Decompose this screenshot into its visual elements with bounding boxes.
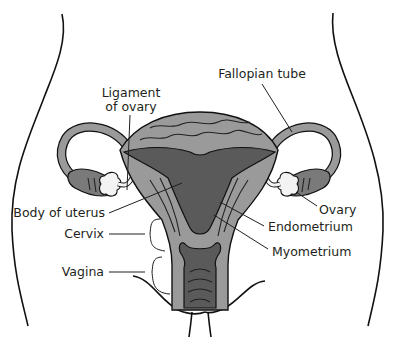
fallopian-tube-right [266, 127, 337, 196]
label-cervix: Cervix [64, 226, 104, 241]
label-body-of-uterus: Body of uterus [13, 205, 105, 220]
brace-vagina [152, 257, 170, 294]
leader-fallopian-tube [262, 84, 292, 132]
vulva-line-right [208, 312, 211, 337]
label-myometrium: Myometrium [272, 244, 351, 259]
label-ligament-of-ovary-line2: of ovary [105, 99, 157, 114]
vulva-line-left [189, 312, 192, 337]
body-outline-left [12, 14, 64, 326]
label-fallopian-tube: Fallopian tube [218, 66, 306, 81]
label-ovary: Ovary [319, 202, 357, 217]
cervix-vagina-canal [179, 243, 220, 308]
label-endometrium: Endometrium [268, 219, 353, 234]
label-vagina: Vagina [62, 264, 104, 279]
fallopian-tube-left [61, 127, 132, 196]
label-ligament-of-ovary-line1: Ligament [102, 85, 161, 100]
uterus-anatomy-diagram: Ligament of ovary Fallopian tube Body of… [0, 0, 395, 342]
body-outline-right [333, 13, 384, 326]
